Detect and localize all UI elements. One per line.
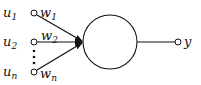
output-label-y: y bbox=[183, 34, 192, 49]
input-label-un: un bbox=[3, 64, 17, 81]
input-u2: u2 w2 bbox=[3, 28, 82, 51]
weight-label-wn: wn bbox=[40, 66, 57, 83]
output-node bbox=[175, 39, 181, 45]
input-label-u1: u1 bbox=[3, 5, 17, 22]
weight-label-w1: w1 bbox=[40, 5, 57, 22]
input-node-2 bbox=[31, 39, 37, 45]
input-label-u2: u2 bbox=[3, 34, 17, 51]
neuron-circle bbox=[83, 15, 137, 69]
ellipsis-dots bbox=[33, 50, 36, 65]
neuron-diagram: u1 w1 u2 w2 un wn y bbox=[0, 0, 201, 85]
input-node-1 bbox=[31, 10, 37, 16]
weight-arrow-n bbox=[37, 43, 82, 70]
input-node-n bbox=[31, 69, 37, 75]
